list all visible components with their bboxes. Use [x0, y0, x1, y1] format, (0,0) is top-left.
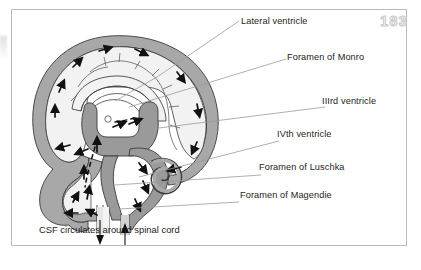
label-iiird-ventricle: IIIrd ventricle: [322, 96, 376, 106]
iiird-ventricle: [82, 102, 159, 156]
massa-intermedia: [105, 116, 111, 122]
figure-caption: CSF circulates around spinal cord: [39, 224, 180, 235]
figure-root: 183: [0, 0, 421, 270]
label-foramen-of-magendie: Foramen of Magendie: [240, 190, 332, 200]
brain-csf-circulation-illustration: [11, 9, 407, 246]
label-foramen-of-luschka: Foramen of Luschka: [259, 162, 345, 172]
brain-outer-csf-space: [33, 36, 219, 232]
label-lateral-ventricle: Lateral ventricle: [241, 16, 308, 26]
scan-artifact: [0, 36, 7, 58]
label-ivth-ventricle: IVth ventricle: [277, 129, 332, 139]
label-foramen-of-monro: Foramen of Monro: [287, 52, 364, 62]
